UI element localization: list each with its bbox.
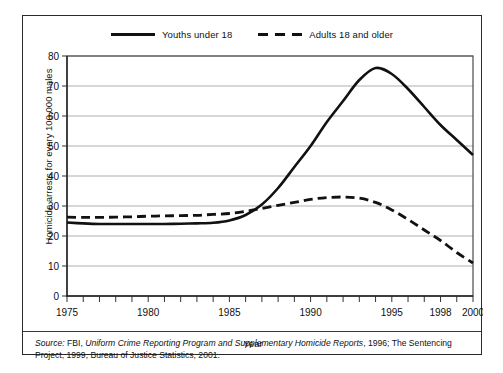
legend-entry-youths: Youths under 18 [111, 29, 232, 40]
source-divider [23, 331, 481, 332]
legend-label-youths: Youths under 18 [162, 29, 232, 40]
x-axis-ticks: 1975198019851990199519982000 [56, 296, 483, 318]
svg-text:1975: 1975 [56, 307, 79, 318]
legend-swatch-dashed-icon [258, 33, 302, 36]
legend-swatch-solid-icon [111, 33, 155, 36]
svg-text:20: 20 [48, 231, 60, 242]
svg-text:0: 0 [53, 291, 59, 302]
legend-entry-adults: Adults 18 and older [258, 29, 393, 40]
svg-text:10: 10 [48, 261, 60, 272]
svg-text:1985: 1985 [218, 307, 241, 318]
svg-text:1980: 1980 [137, 307, 160, 318]
svg-text:60: 60 [48, 111, 60, 122]
source-note: Source: FBI, Uniform Crime Reporting Pro… [35, 338, 465, 361]
svg-text:30: 30 [48, 201, 60, 212]
data-series [67, 68, 473, 263]
source-publication-title: Uniform Crime Reporting Program and Supp… [85, 338, 363, 348]
svg-text:1998: 1998 [429, 307, 452, 318]
svg-text:70: 70 [48, 81, 60, 92]
svg-text:1995: 1995 [381, 307, 404, 318]
svg-text:80: 80 [48, 51, 60, 62]
y-axis-ticks: 01020304050607080 [48, 51, 67, 302]
plot-area-wrapper: Homicide arrests for every 100,000 males… [23, 46, 483, 301]
series-line-adults [67, 197, 473, 263]
chart-legend: Youths under 18 Adults 18 and older [23, 22, 481, 46]
svg-text:50: 50 [48, 141, 60, 152]
svg-text:40: 40 [48, 171, 60, 182]
source-text-1: FBI, [65, 338, 86, 348]
grid-lines [67, 56, 473, 266]
line-chart: 01020304050607080 1975198019851990199519… [23, 46, 483, 336]
svg-text:2000: 2000 [462, 307, 483, 318]
svg-text:1990: 1990 [299, 307, 322, 318]
figure-frame: Youths under 18 Adults 18 and older Homi… [22, 15, 482, 355]
source-label: Source: [35, 338, 65, 348]
legend-label-adults: Adults 18 and older [309, 29, 393, 40]
